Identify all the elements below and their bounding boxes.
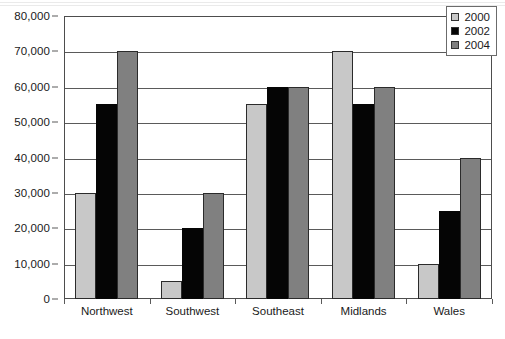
y-tick-mark	[52, 299, 58, 300]
x-tick-mark	[235, 299, 236, 304]
scan-artifact	[0, 5, 505, 6]
bar	[246, 104, 267, 299]
legend-label: 2002	[464, 24, 490, 38]
y-tick-mark	[52, 157, 58, 158]
bar	[332, 51, 353, 299]
x-tick-label: Northwest	[64, 305, 150, 317]
x-tick-mark	[150, 299, 151, 304]
legend-swatch-icon	[451, 27, 459, 35]
bar	[267, 87, 288, 299]
y-tick-mark	[52, 51, 58, 52]
x-tick-mark	[64, 299, 65, 304]
bar-groups	[64, 16, 492, 299]
legend-label: 2004	[464, 38, 490, 52]
legend-swatch-icon	[451, 13, 459, 21]
bar-group	[321, 16, 407, 299]
y-tick-mark	[52, 263, 58, 264]
bar	[161, 281, 182, 299]
bar	[75, 193, 96, 299]
bar-chart: 010,00020,00030,00040,00050,00060,00070,…	[0, 0, 505, 339]
x-tick-mark	[406, 299, 407, 304]
y-tick-label: 60,000	[14, 81, 50, 93]
bar-group	[64, 16, 150, 299]
bar	[96, 104, 117, 299]
legend-swatch-icon	[451, 41, 459, 49]
y-tick-mark	[52, 192, 58, 193]
bar-group	[406, 16, 492, 299]
bar	[460, 158, 481, 300]
bar	[439, 211, 460, 299]
bar	[203, 193, 224, 299]
y-tick-mark	[52, 228, 58, 229]
y-tick-label: 20,000	[14, 222, 50, 234]
bar	[182, 228, 203, 299]
y-tick-label: 10,000	[14, 258, 50, 270]
legend-item: 2004	[451, 38, 490, 52]
x-tick-label: Wales	[406, 305, 492, 317]
legend-item: 2002	[451, 24, 490, 38]
x-tick-label: Midlands	[321, 305, 407, 317]
scan-artifact	[0, 2, 505, 3]
y-tick-mark	[52, 86, 58, 87]
legend: 200020022004	[446, 6, 497, 56]
y-tick-mark	[52, 122, 58, 123]
legend-label: 2000	[464, 10, 490, 24]
x-tick-mark	[492, 299, 493, 304]
x-tick-label: Southeast	[235, 305, 321, 317]
bar-group	[150, 16, 236, 299]
x-tick-mark	[321, 299, 322, 304]
bar	[288, 87, 309, 299]
y-tick-label: 70,000	[14, 45, 50, 57]
bar	[353, 104, 374, 299]
bar	[374, 87, 395, 299]
y-tick-label: 30,000	[14, 187, 50, 199]
y-tick-label: 80,000	[14, 10, 50, 22]
y-tick-label: 0	[44, 293, 51, 305]
bar	[117, 51, 138, 299]
x-tick-label: Southwest	[150, 305, 236, 317]
bar	[418, 264, 439, 299]
legend-item: 2000	[451, 10, 490, 24]
y-tick-label: 40,000	[14, 152, 50, 164]
bar-group	[235, 16, 321, 299]
y-tick-label: 50,000	[14, 116, 50, 128]
y-axis: 010,00020,00030,00040,00050,00060,00070,…	[0, 16, 58, 299]
x-axis-labels: NorthwestSouthwestSoutheastMidlandsWales	[64, 305, 492, 317]
y-tick-mark	[52, 16, 58, 17]
